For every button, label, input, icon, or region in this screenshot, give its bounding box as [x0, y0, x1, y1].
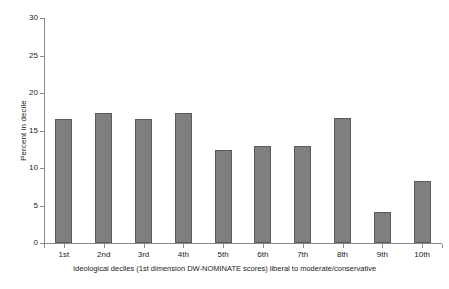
x-axis-tick: [44, 244, 45, 248]
bar-6th[interactable]: [254, 146, 271, 244]
bar-9th[interactable]: [374, 212, 391, 244]
bar-4th[interactable]: [175, 113, 192, 243]
x-axis-tick: [343, 244, 344, 248]
x-axis-tick-label: 4th: [163, 250, 203, 260]
x-axis-tick: [144, 244, 145, 248]
x-axis-tick-label: 1st: [44, 250, 84, 260]
y-axis-tick-label: 20: [22, 89, 38, 97]
x-axis-tick: [303, 244, 304, 248]
bar-5th[interactable]: [215, 150, 232, 243]
x-axis-tick-label: 7th: [283, 250, 323, 260]
bar-3rd[interactable]: [135, 119, 152, 244]
x-axis-tick: [263, 244, 264, 248]
bar-1st[interactable]: [55, 119, 72, 244]
x-axis-tick-label: 8th: [323, 250, 363, 260]
y-axis-tick: [40, 56, 44, 57]
x-axis-tick: [382, 244, 383, 248]
y-axis-tick-label: 30: [22, 14, 38, 22]
x-axis-tick: [442, 244, 443, 248]
y-axis-tick-label: 0: [22, 239, 38, 247]
x-axis-tick: [104, 244, 105, 248]
bar-chart: Percent in decile 051015202530 1st2nd3rd…: [0, 0, 449, 289]
plot-area: 1st2nd3rd4th5th6th7th8th9th10th: [44, 18, 442, 243]
x-axis-tick-label: 6th: [243, 250, 283, 260]
y-axis-tick-label: 10: [22, 164, 38, 172]
y-axis-tick-label: 15: [22, 127, 38, 135]
x-axis-tick-label: 10th: [402, 250, 442, 260]
x-axis-tick-label: 5th: [203, 250, 243, 260]
x-axis-tick: [64, 244, 65, 248]
x-axis-tick: [422, 244, 423, 248]
y-axis-tick: [40, 93, 44, 94]
x-axis-tick: [183, 244, 184, 248]
x-axis-tick-label: 9th: [362, 250, 402, 260]
y-axis-tick-labels: 051015202530: [22, 0, 38, 289]
bar-10th[interactable]: [414, 181, 431, 243]
x-axis-tick-label: 2nd: [84, 250, 124, 260]
bar-8th[interactable]: [334, 118, 351, 243]
x-axis-tick-label: 3rd: [124, 250, 164, 260]
y-axis-line: [44, 18, 45, 244]
y-axis-tick: [40, 168, 44, 169]
bar-2nd[interactable]: [95, 113, 112, 243]
x-axis-title: Ideological deciles (1st dimension DW-NO…: [0, 264, 449, 274]
x-axis-tick: [223, 244, 224, 248]
y-axis-tick-label: 5: [22, 202, 38, 210]
bar-7th[interactable]: [294, 146, 311, 244]
y-axis-tick: [40, 18, 44, 19]
y-axis-tick: [40, 206, 44, 207]
y-axis-tick-label: 25: [22, 52, 38, 60]
y-axis-tick: [40, 131, 44, 132]
